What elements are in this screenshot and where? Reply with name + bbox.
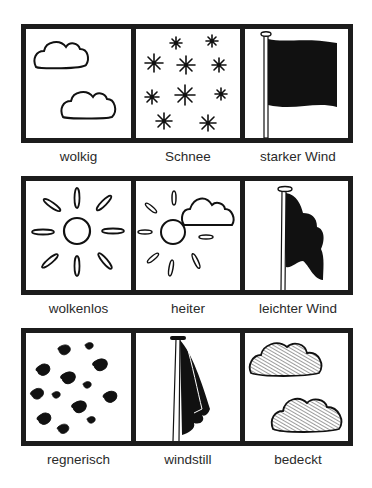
row-frame [21, 24, 353, 143]
sun-with-cloud-icon [136, 181, 240, 290]
card-wolkenlos [26, 181, 131, 290]
card-windstill [136, 333, 240, 441]
label-starker-wind: starker Wind [243, 149, 353, 164]
two-clouds-hatched-icon [245, 333, 348, 441]
label-regnerisch: regnerisch [21, 452, 136, 467]
label-wolkenlos: wolkenlos [21, 301, 136, 316]
flag-strong-wind-icon [245, 29, 348, 138]
raindrops-icon [26, 333, 131, 441]
flag-light-wind-icon [245, 181, 348, 290]
label-leichter-wind: leichter Wind [243, 301, 353, 316]
sun-icon [26, 181, 131, 290]
card-leichter-wind [245, 181, 348, 290]
card-regnerisch [26, 333, 131, 441]
label-heiter: heiter [134, 301, 242, 316]
row-frame [21, 176, 353, 295]
label-bedeckt: bedeckt [243, 452, 353, 467]
label-wolkig: wolkig [21, 149, 136, 164]
card-starker-wind [245, 29, 348, 138]
card-heiter [136, 181, 240, 290]
two-clouds-outline-icon [26, 29, 131, 138]
flag-no-wind-icon [136, 333, 240, 441]
card-bedeckt [245, 333, 348, 441]
card-wolkig [26, 29, 131, 138]
label-schnee: Schnee [134, 149, 242, 164]
label-windstill: windstill [134, 452, 242, 467]
row-frame [21, 328, 353, 446]
card-schnee [136, 29, 240, 138]
snowflakes-icon [136, 29, 240, 138]
